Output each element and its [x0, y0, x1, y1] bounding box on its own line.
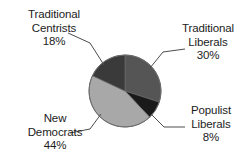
pie-label-populist-liberals: Populist Liberals 8%	[178, 104, 244, 145]
pie-label-value: 44%	[4, 139, 106, 153]
pie-label-traditional-centrists: Traditional Centrists 18%	[6, 8, 102, 49]
pie-label-line2: Democrats	[4, 126, 106, 140]
pie-label-line2: Liberals	[172, 36, 244, 50]
pie-label-traditional-liberals: Traditional Liberals 30%	[172, 22, 244, 63]
pie-label-value: 30%	[172, 49, 244, 63]
pie-label-new-democrats: New Democrats 44%	[4, 112, 106, 153]
pie-label-value: 8%	[178, 131, 244, 145]
pie-chart-figure: Traditional Centrists 18% Traditional Li…	[0, 0, 248, 164]
pie-label-line1: Traditional	[172, 22, 244, 36]
pie-label-line1: New	[4, 112, 106, 126]
pie-label-line2: Liberals	[178, 118, 244, 132]
pie-label-value: 18%	[6, 35, 102, 49]
pie-label-line1: Traditional	[6, 8, 102, 22]
pie-label-line2: Centrists	[6, 22, 102, 36]
pie-label-line1: Populist	[178, 104, 244, 118]
